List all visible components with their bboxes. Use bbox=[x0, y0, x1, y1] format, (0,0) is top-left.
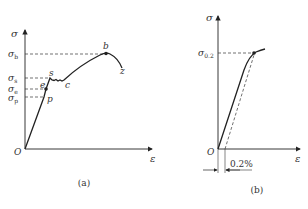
point-b-dot bbox=[104, 52, 108, 56]
tick-sigma-02: σ0.2 bbox=[198, 48, 214, 59]
origin-label-a: O bbox=[14, 147, 22, 157]
tick-sigma-b: σb bbox=[8, 49, 18, 60]
offset-dashline bbox=[225, 55, 254, 149]
point-label-s: s bbox=[49, 68, 54, 78]
point-label-e: e bbox=[40, 80, 45, 90]
point-label-p: p bbox=[47, 94, 53, 104]
figure-a: σ ε O σb σs σe σp p e s c b z (a) bbox=[8, 28, 155, 188]
stress-strain-curve-b bbox=[218, 49, 265, 149]
point-label-b: b bbox=[103, 41, 109, 51]
stress-strain-diagrams: σ ε O σb σs σe σp p e s c b z (a) σ ε O … bbox=[0, 0, 308, 209]
yield-point-dot bbox=[252, 51, 256, 55]
x-axis-label-a: ε bbox=[150, 153, 155, 164]
y-axis-label-a: σ bbox=[11, 28, 19, 39]
point-label-z: z bbox=[119, 66, 125, 76]
figure-b: σ ε O σ0.2 0.2% (b) bbox=[198, 12, 300, 195]
offset-label: 0.2% bbox=[230, 159, 253, 169]
y-axis-label-b: σ bbox=[206, 12, 214, 23]
point-label-c: c bbox=[65, 80, 70, 90]
origin-label-b: O bbox=[207, 147, 215, 157]
x-axis-label-b: ε bbox=[295, 153, 300, 164]
caption-a: (a) bbox=[78, 178, 90, 188]
tick-sigma-s: σs bbox=[8, 73, 17, 84]
caption-b: (b) bbox=[251, 185, 264, 195]
stress-strain-curve-a bbox=[25, 53, 122, 149]
